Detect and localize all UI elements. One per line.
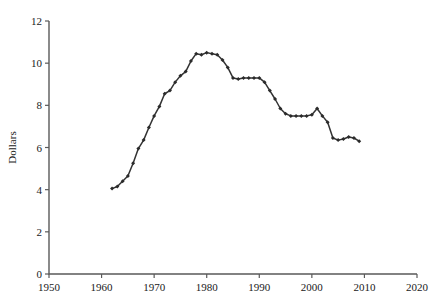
y-tick-label: 8 — [37, 99, 43, 111]
line-chart: 0246810121950196019701980199020002010202… — [0, 0, 434, 307]
data-point-marker — [252, 76, 256, 80]
data-point-marker — [347, 135, 351, 139]
y-tick-label: 6 — [37, 142, 43, 154]
x-tick-label: 1970 — [143, 281, 166, 293]
data-point-marker — [205, 51, 209, 55]
y-tick-label: 2 — [37, 226, 43, 238]
x-tick-label: 1980 — [196, 281, 219, 293]
data-point-marker — [110, 187, 114, 191]
y-tick-label: 4 — [37, 184, 43, 196]
data-point-marker — [242, 76, 246, 80]
data-point-marker — [210, 52, 214, 56]
data-point-marker — [331, 136, 335, 140]
y-axis-title: Dollars — [6, 131, 18, 163]
data-point-marker — [294, 114, 298, 118]
chart-figure: 0246810121950196019701980199020002010202… — [0, 0, 434, 307]
data-point-marker — [289, 114, 293, 118]
x-tick-label: 2000 — [301, 281, 324, 293]
data-point-marker — [199, 53, 203, 57]
y-tick-label: 0 — [37, 268, 43, 280]
x-tick-label: 1950 — [38, 281, 61, 293]
y-tick-label: 10 — [31, 57, 43, 69]
data-point-marker — [336, 138, 340, 142]
x-tick-label: 1960 — [91, 281, 114, 293]
data-line-Dollars — [112, 53, 359, 189]
data-point-marker — [341, 137, 345, 141]
data-point-marker — [236, 77, 240, 81]
data-point-marker — [131, 161, 135, 165]
data-point-marker — [247, 76, 251, 80]
y-tick-label: 12 — [31, 15, 42, 27]
data-point-marker — [299, 114, 303, 118]
x-tick-label: 2020 — [406, 281, 429, 293]
chart-axes — [49, 21, 417, 274]
x-tick-label: 1990 — [248, 281, 271, 293]
x-tick-label: 2010 — [353, 281, 376, 293]
data-point-marker — [305, 114, 309, 118]
